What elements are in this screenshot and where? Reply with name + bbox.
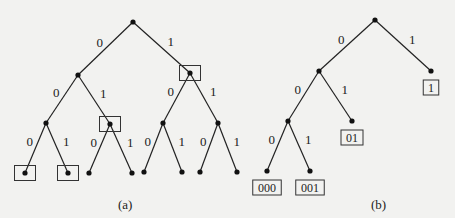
- tree-b-edge-label: 0: [269, 132, 276, 147]
- full-binary-tree-a: 01010101010101: [15, 19, 241, 180]
- tree-a-node: [65, 170, 70, 175]
- tree-b-node: [285, 118, 290, 123]
- tree-a-node: [107, 121, 112, 126]
- tree-a-node: [86, 170, 91, 175]
- tree-b-node: [428, 68, 433, 73]
- tree-a-node: [160, 120, 165, 125]
- tree-b-edge-label: 0: [338, 32, 345, 47]
- tree-a-edge: [46, 75, 78, 123]
- tree-a-node: [75, 72, 80, 77]
- tree-a-edge-label: 1: [100, 86, 107, 101]
- tree-a-node: [234, 169, 239, 174]
- tree-b-edge-label: 1: [342, 82, 349, 97]
- tree-a-edge: [78, 22, 133, 75]
- tree-a-edge-label: 0: [145, 134, 152, 149]
- tree-a-node: [130, 19, 135, 24]
- tree-a-edge-label: 1: [210, 84, 217, 99]
- tree-b-edge-label: 1: [305, 132, 312, 147]
- tree-b-node: [316, 68, 321, 73]
- tree-a-node: [129, 170, 134, 175]
- tree-b-node: [372, 17, 377, 22]
- tree-b-node: [349, 118, 354, 123]
- prefix-code-trees-figure: 01010101010101 010101101000001 (a) (b): [0, 0, 455, 218]
- tree-b-codeword-label: 001: [301, 181, 319, 195]
- tree-a-edge-label: 1: [179, 134, 186, 149]
- tree-b-edge: [288, 71, 319, 121]
- tree-a-edge-label: 0: [168, 84, 175, 99]
- tree-a-edge-label: 1: [168, 34, 175, 49]
- pruned-code-tree-b: 010101101000001: [253, 17, 439, 195]
- tree-b-codeword-label: 1: [428, 81, 434, 95]
- tree-b-edge-label: 1: [409, 32, 416, 47]
- tree-a-edge-label: 1: [234, 134, 241, 149]
- tree-a-edge-label: 0: [97, 35, 104, 50]
- tree-a-node: [141, 169, 146, 174]
- tree-a-node: [179, 169, 184, 174]
- tree-b-edge: [375, 20, 431, 71]
- tree-b-codeword-label: 01: [346, 131, 358, 145]
- tree-a-node: [197, 169, 202, 174]
- tree-a-edge-label: 1: [127, 135, 134, 150]
- tree-a-node: [215, 120, 220, 125]
- tree-b-codeword-label: 000: [258, 181, 276, 195]
- tree-b-edge: [319, 20, 375, 71]
- tree-a-edge-label: 0: [53, 85, 60, 100]
- tree-b-node: [307, 168, 312, 173]
- tree-a-node: [43, 120, 48, 125]
- tree-b-edge-label: 0: [295, 82, 302, 97]
- tree-a-edge-label: 1: [63, 134, 70, 149]
- tree-a-node: [22, 170, 27, 175]
- tree-a-edge-label: 0: [91, 135, 98, 150]
- tree-b-node: [264, 168, 269, 173]
- tree-diagram-canvas: 01010101010101 010101101000001: [0, 0, 455, 218]
- tree-a-edge-label: 0: [200, 134, 207, 149]
- tree-a-node: [187, 70, 192, 75]
- tree-a-edge-label: 0: [27, 134, 34, 149]
